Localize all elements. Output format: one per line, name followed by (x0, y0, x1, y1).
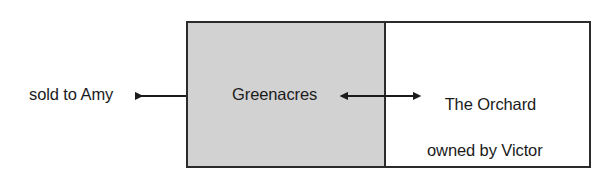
orchard-label: The Orchard owned by Victor (427, 70, 543, 183)
land-parcel-diagram: Greenacres The Orchard owned by Victor s… (0, 0, 613, 183)
greenacres-label: Greenacres (232, 85, 317, 104)
orchard-label-line1: The Orchard (445, 95, 537, 113)
sold-to-amy-label: sold to Amy (29, 85, 113, 104)
orchard-label-line2: owned by Victor (427, 139, 543, 162)
